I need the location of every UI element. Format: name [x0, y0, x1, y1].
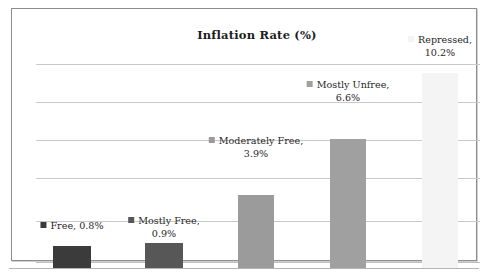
bar-mostly-unfree[interactable] — [330, 139, 366, 268]
bar-label-text-repressed: Repressed, — [418, 34, 472, 45]
bar-group-mostly-free: Mostly Free, 0.9% — [118, 18, 210, 268]
inflation-rate-chart-figure: Inflation Rate (%) Free, 0.8% Mostly Fre… — [0, 0, 491, 278]
legend-marker-icon-moderately-free — [209, 137, 215, 143]
bar-label-text-mostly-free: Mostly Free, — [138, 215, 200, 226]
bar-label-mostly-unfree: Mostly Unfree, 6.6% — [307, 79, 390, 104]
bar-label-text-free: Free, 0.8% — [50, 220, 103, 231]
chart-frame: Inflation Rate (%) Free, 0.8% Mostly Fre… — [11, 8, 477, 261]
bar-group-free: Free, 0.8% — [26, 18, 118, 268]
bar-group-moderately-free: Moderately Free, 3.9% — [210, 18, 302, 268]
bar-value-text-mostly-unfree: 6.6% — [307, 92, 390, 105]
bar-value-text-repressed: 10.2% — [408, 47, 472, 60]
bar-free[interactable] — [53, 246, 91, 268]
plot-area: Inflation Rate (%) Free, 0.8% Mostly Fre… — [26, 18, 488, 268]
bar-value-text-mostly-free: 0.9% — [128, 228, 200, 241]
bar-label-repressed: Repressed, 10.2% — [408, 34, 472, 59]
legend-marker-icon-mostly-unfree — [307, 81, 313, 87]
bar-value-text-moderately-free: 3.9% — [209, 148, 303, 161]
bar-label-moderately-free: Moderately Free, 3.9% — [209, 135, 303, 160]
bar-label-text-moderately-free: Moderately Free, — [219, 135, 303, 146]
bar-group-repressed: Repressed, 10.2% — [394, 18, 486, 268]
bar-group-mostly-unfree: Mostly Unfree, 6.6% — [302, 18, 394, 268]
legend-marker-icon-repressed — [408, 36, 414, 42]
bar-label-free: Free, 0.8% — [40, 220, 103, 233]
bar-label-mostly-free: Mostly Free, 0.9% — [128, 215, 200, 240]
bar-moderately-free[interactable] — [238, 195, 274, 268]
legend-marker-icon-free — [40, 222, 46, 228]
page-rule-divider — [9, 268, 479, 269]
legend-marker-icon-mostly-free — [128, 217, 134, 223]
bar-label-text-mostly-unfree: Mostly Unfree, — [317, 79, 390, 90]
bar-mostly-free[interactable] — [145, 243, 183, 268]
bar-repressed[interactable] — [422, 73, 458, 268]
